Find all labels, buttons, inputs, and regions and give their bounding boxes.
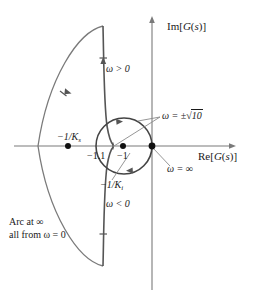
omega-sqrt10-prefix: ω = ± (162, 110, 186, 121)
infinite-arc-lower (38, 146, 103, 266)
point-minus-1-label: −1 (117, 150, 128, 163)
arc-note-line-1: Arc at ∞ (9, 216, 66, 229)
gain-margin-upper-subscript: s (78, 136, 81, 144)
omega-negative-label: ω < 0 (106, 198, 130, 211)
arrowhead-circle-top (116, 119, 123, 125)
gain-margin-upper-label: −1/Ks (57, 131, 81, 145)
imag-axis-arrowhead (149, 16, 155, 23)
gain-margin-lower-prefix: −1/K (100, 179, 121, 190)
arc-note-line-2: all from ω = 0 (9, 229, 66, 242)
omega-sqrt10-radicand: 10 (191, 109, 203, 121)
gain-margin-lower-subscript: i (121, 184, 123, 192)
omega-sqrt10-label: ω = ±√10 (162, 110, 203, 123)
omega-positive-label: ω > 0 (106, 63, 130, 76)
omega-infinity-label: ω = ∞ (167, 163, 193, 176)
contour-upper-branch (103, 26, 114, 145)
gain-margin-lower-label: −1/Ki (100, 179, 123, 193)
nyquist-plot-figure: Im[G(s)] Re[G(s)] ω > 0 ω < 0 ω = ±√10 ω… (0, 0, 253, 301)
gain-margin-upper-prefix: −1/K (57, 131, 78, 142)
real-axis-arrowhead (229, 143, 236, 149)
circle-center-dot (120, 143, 126, 149)
arc-note: Arc at ∞ all from ω = 0 (9, 216, 66, 241)
infinite-arc-upper (38, 26, 103, 146)
real-axis-label: Re[G(s)] (198, 150, 237, 164)
origin-dot (149, 143, 156, 150)
imag-axis-label: Im[G(s)] (167, 20, 206, 34)
point-minus-1-1-label: −1.1 (87, 150, 105, 163)
leader-lines (112, 117, 170, 180)
